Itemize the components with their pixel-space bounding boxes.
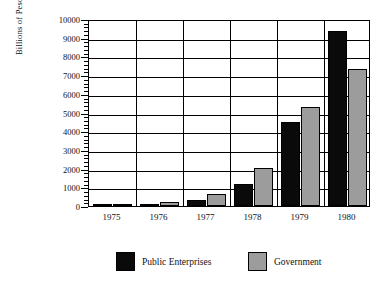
y-axis-tick-label: 8000 — [38, 53, 80, 62]
y-axis-minor-tick — [84, 87, 88, 88]
y-axis-tick-label: 5000 — [38, 110, 80, 119]
y-axis-tick-labels: 0100020003000400050006000700080009000100… — [34, 20, 80, 207]
x-axis-tick-labels: 197519761977197819791980 — [88, 212, 370, 228]
y-axis-minor-tick — [84, 185, 88, 186]
bar — [160, 202, 179, 206]
y-axis-minor-tick — [84, 143, 88, 144]
x-axis-tick-label: 1976 — [150, 212, 168, 222]
y-axis-minor-tick — [84, 192, 88, 193]
x-axis-tick-label: 1980 — [338, 212, 356, 222]
y-axis-minor-tick — [84, 35, 88, 36]
y-axis-major-tick — [81, 170, 88, 171]
y-axis-minor-tick — [84, 84, 88, 85]
bar — [254, 168, 273, 206]
y-axis-minor-tick — [84, 24, 88, 25]
x-axis-tick-label: 1979 — [291, 212, 309, 222]
bar — [140, 204, 159, 206]
chart-figure: Billions of Pesos 0100020003000400050006… — [0, 0, 388, 296]
y-axis-minor-tick — [84, 200, 88, 201]
bar — [234, 184, 253, 206]
bar — [301, 107, 320, 206]
y-axis-major-tick — [81, 20, 88, 21]
y-axis-tick-label: 9000 — [38, 35, 80, 44]
legend-label: Public Enterprises — [142, 257, 211, 267]
y-axis-minor-tick — [84, 65, 88, 66]
y-axis-minor-tick — [84, 31, 88, 32]
legend-swatch — [116, 252, 135, 271]
y-axis-minor-tick — [84, 128, 88, 129]
y-axis-minor-tick — [84, 117, 88, 118]
y-axis-tick-label: 1000 — [38, 184, 80, 193]
legend-item: Government — [248, 252, 322, 271]
y-axis-major-tick — [81, 188, 88, 189]
y-axis-minor-tick — [84, 121, 88, 122]
y-axis-minor-tick — [84, 69, 88, 70]
y-axis-minor-tick — [84, 72, 88, 73]
y-axis-minor-tick — [84, 177, 88, 178]
y-axis-minor-tick — [84, 155, 88, 156]
y-axis-minor-tick — [84, 125, 88, 126]
legend-item: Public Enterprises — [116, 252, 211, 271]
y-axis-minor-tick — [84, 140, 88, 141]
y-axis-minor-tick — [84, 54, 88, 55]
bar — [93, 204, 112, 206]
chart-legend: Public EnterprisesGovernment — [88, 252, 370, 280]
y-axis-minor-tick — [84, 147, 88, 148]
y-axis-major-tick — [81, 57, 88, 58]
legend-label: Government — [274, 257, 322, 267]
y-axis-major-tick — [81, 114, 88, 115]
y-axis-major-tick — [81, 76, 88, 77]
y-axis-minor-tick — [84, 162, 88, 163]
y-axis-tick-label: 10000 — [38, 16, 80, 25]
y-axis-minor-tick — [84, 91, 88, 92]
y-axis-major-tick — [81, 151, 88, 152]
y-axis-tick-label: 7000 — [38, 72, 80, 81]
y-axis-major-tick — [81, 39, 88, 40]
y-axis-major-tick — [81, 207, 88, 208]
y-axis-minor-tick — [84, 42, 88, 43]
y-axis-minor-tick — [84, 106, 88, 107]
bar — [328, 31, 347, 206]
bar — [207, 194, 226, 206]
y-axis-title: Billions of Pesos — [14, 0, 32, 55]
bar — [281, 122, 300, 206]
y-axis-minor-tick — [84, 110, 88, 111]
y-axis-minor-tick — [84, 158, 88, 159]
y-axis-minor-tick — [84, 61, 88, 62]
x-axis-tick-label: 1975 — [103, 212, 121, 222]
y-axis-tick-label: 2000 — [38, 166, 80, 175]
y-axis-major-tick — [81, 95, 88, 96]
y-axis-minor-tick — [84, 173, 88, 174]
y-axis-minor-tick — [84, 27, 88, 28]
y-axis-minor-tick — [84, 50, 88, 51]
y-axis-tick-label: 3000 — [38, 147, 80, 156]
bar — [348, 69, 367, 206]
y-axis-minor-tick — [84, 166, 88, 167]
y-axis-minor-tick — [84, 136, 88, 137]
bars-group — [89, 21, 369, 206]
y-axis-minor-tick — [84, 181, 88, 182]
y-axis-minor-tick — [84, 102, 88, 103]
y-axis-major-tick — [81, 132, 88, 133]
plot-area — [88, 20, 370, 207]
y-axis-tick-label: 6000 — [38, 91, 80, 100]
x-axis-tick-label: 1978 — [244, 212, 262, 222]
x-axis-tick-label: 1977 — [197, 212, 215, 222]
y-axis-minor-tick — [84, 46, 88, 47]
y-axis-minor-tick — [84, 99, 88, 100]
y-axis-tick-label: 4000 — [38, 128, 80, 137]
bar — [113, 204, 132, 206]
y-axis-minor-tick — [84, 80, 88, 81]
bar — [187, 200, 206, 206]
y-axis-minor-tick — [84, 203, 88, 204]
y-axis-minor-tick — [84, 196, 88, 197]
legend-swatch — [248, 252, 267, 271]
y-axis-tick-label: 0 — [38, 203, 80, 212]
